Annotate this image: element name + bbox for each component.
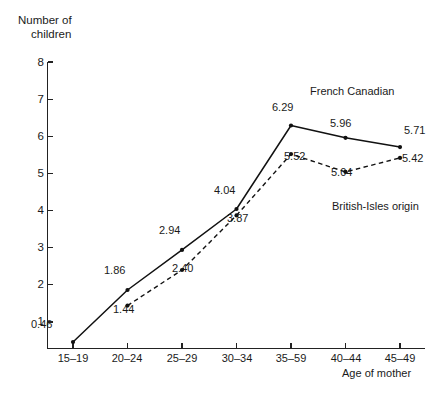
series-line-french-canadian	[73, 126, 400, 343]
data-point-bi-4	[289, 152, 293, 156]
data-point-fc-3	[234, 207, 238, 211]
chart-figure: Number ofchildren Age of mother 8 7 6 5 …	[0, 0, 447, 401]
series-markers-british-isles-origin	[125, 152, 402, 308]
series-markers-french-canadian	[71, 123, 402, 344]
data-point-bi-1	[125, 304, 129, 308]
data-point-fc-5	[343, 136, 347, 140]
data-point-bi-5	[343, 170, 347, 174]
y-axis-ticks	[48, 62, 54, 322]
data-point-fc-0	[71, 340, 75, 344]
axes	[48, 62, 426, 349]
data-point-fc-1	[125, 288, 129, 292]
data-point-fc-4	[289, 123, 293, 127]
data-point-bi-6	[398, 156, 402, 160]
data-point-fc-2	[180, 248, 184, 252]
series-line-british-isles-origin	[128, 154, 401, 306]
x-axis-ticks	[73, 343, 400, 349]
data-point-bi-2	[180, 268, 184, 272]
plot-canvas	[0, 0, 447, 401]
data-point-fc-6	[398, 145, 402, 149]
data-point-bi-3	[234, 213, 238, 217]
